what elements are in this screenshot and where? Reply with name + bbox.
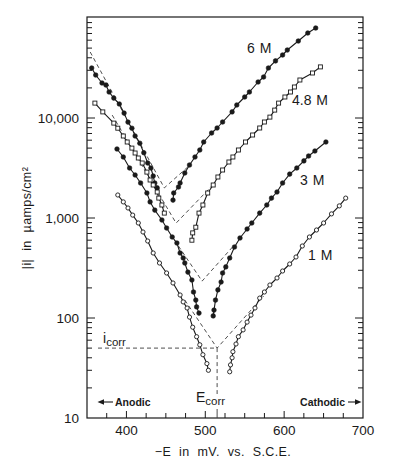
4-8m-cathodic-data-point bbox=[244, 140, 248, 144]
4-8m-cathodic-data-point bbox=[194, 225, 198, 229]
1m-cathodic-data-point bbox=[228, 370, 232, 374]
1m-cathodic-data-point bbox=[294, 255, 298, 259]
4-8m-cathodic-data-point bbox=[227, 160, 231, 164]
y-axis-title: |i| in µamps/cm² bbox=[20, 167, 34, 269]
1m-anodic-data-point bbox=[136, 221, 140, 225]
4-8m-cathodic-data-point bbox=[268, 115, 272, 119]
1m-cathodic-data-point bbox=[258, 296, 262, 300]
6m-cathodic-data-point bbox=[171, 191, 176, 196]
x-axis-title: −E in mV. vs. S.C.E. bbox=[155, 445, 291, 459]
4-8m-anodic-curve bbox=[95, 103, 164, 213]
3m-cathodic-data-point bbox=[324, 140, 329, 145]
6m-anodic-data-point bbox=[138, 141, 143, 146]
3m-cathodic-data-point bbox=[213, 298, 218, 303]
1m-cathodic-data-point bbox=[231, 350, 235, 354]
series-label-4-8m: 4.8 M bbox=[292, 92, 328, 108]
4-8m-anodic-data-point bbox=[133, 151, 137, 155]
6m-cathodic-data-point bbox=[285, 48, 290, 53]
6m-cathodic-data-point bbox=[230, 110, 235, 115]
1m-anodic-data-point bbox=[205, 362, 209, 366]
6m-anodic-data-point bbox=[93, 73, 98, 78]
4-8m-cathodic-data-point bbox=[197, 211, 201, 215]
4-8m-cathodic-data-point bbox=[318, 65, 322, 69]
4-8m-anodic-data-point bbox=[121, 134, 125, 138]
3m-cathodic-data-point bbox=[250, 221, 255, 226]
1m-anodic-data-point bbox=[198, 343, 202, 347]
3m-cathodic-data-point bbox=[313, 149, 318, 154]
3m-cathodic-data-point bbox=[212, 308, 217, 313]
x-tick-label: 500 bbox=[194, 423, 217, 438]
4-8m-cathodic-data-point bbox=[262, 120, 266, 124]
6m-anodic-data-point bbox=[149, 166, 154, 171]
6m-anodic-data-point bbox=[122, 111, 127, 116]
6m-cathodic-data-point bbox=[178, 181, 183, 186]
4-8m-anodic-data-point bbox=[101, 110, 105, 114]
4-8m-cathodic-data-point bbox=[191, 231, 195, 235]
cathodic-direction-indicator: Cathodic bbox=[300, 396, 361, 408]
3m-cathodic-data-point bbox=[306, 154, 311, 159]
4-8m-anodic-data-point bbox=[145, 170, 149, 174]
6m-anodic-data-point bbox=[130, 126, 135, 131]
3m-cathodic-data-point bbox=[257, 211, 262, 216]
6m-anodic-data-point bbox=[145, 161, 150, 166]
6m-cathodic-data-point bbox=[209, 131, 214, 136]
1m-cathodic-data-point bbox=[228, 363, 232, 367]
1m-anodic-data-point bbox=[171, 281, 175, 285]
6m-anodic-data-point bbox=[104, 83, 109, 88]
1m-anodic-data-point bbox=[185, 306, 189, 310]
3m-anodic-data-point bbox=[127, 166, 132, 171]
1m-anodic-data-point bbox=[116, 193, 120, 197]
1m-anodic-data-point bbox=[131, 213, 135, 217]
6m-cathodic-data-point bbox=[266, 66, 271, 71]
1m-anodic-data-point bbox=[191, 325, 195, 329]
4-8m-cathodic-data-point bbox=[231, 155, 235, 159]
1m-cathodic-data-point bbox=[245, 320, 249, 324]
6m-anodic-data-point bbox=[117, 102, 122, 107]
plot-frame bbox=[87, 17, 363, 418]
1m-cathodic-data-point bbox=[288, 262, 292, 266]
6m-cathodic-data-point bbox=[306, 31, 311, 36]
tafel-polarization-plot: 400500600700101001,00010,000 6 M4.8 M3 M… bbox=[0, 0, 394, 470]
1m-cathodic-data-point bbox=[262, 290, 266, 294]
3m-anodic-data-point bbox=[190, 278, 195, 283]
tafel-extrapolation-lines bbox=[90, 52, 263, 348]
3m-cathodic-data-point bbox=[295, 166, 300, 171]
series-labels: 6 M4.8 M3 M1 M bbox=[247, 40, 332, 263]
6m-cathodic-data-point bbox=[187, 163, 192, 168]
4-8m-anodic-data-point bbox=[93, 101, 97, 105]
y-tick-label: 100 bbox=[56, 311, 79, 326]
3m-anodic-data-point bbox=[194, 305, 199, 310]
i-corr-label: icorr bbox=[103, 330, 126, 348]
1m-anodic-data-point bbox=[121, 200, 125, 204]
4-8m-anodic-data-point bbox=[130, 146, 134, 150]
1m-anodic-data-point bbox=[181, 300, 185, 304]
anodic-label: Anodic bbox=[115, 396, 151, 408]
4-8m-cathodic-data-point bbox=[251, 133, 255, 137]
3m-anodic-data-point bbox=[175, 241, 180, 246]
3m-anodic-data-point bbox=[153, 208, 158, 213]
1m-cathodic-data-point bbox=[234, 342, 238, 346]
3m-cathodic-data-point bbox=[220, 271, 225, 276]
6m-cathodic-data-point bbox=[235, 103, 240, 108]
3m-anodic-data-point bbox=[186, 270, 191, 275]
3m-anodic-data-point bbox=[160, 218, 165, 223]
3m-anodic-data-point bbox=[191, 290, 196, 295]
6m-cathodic-data-point bbox=[242, 95, 247, 100]
4-8m-anodic-data-point bbox=[160, 203, 164, 207]
3m-cathodic-data-point bbox=[269, 196, 274, 201]
4-8m-anodic-data-point bbox=[157, 196, 161, 200]
1m-anodic-data-point bbox=[201, 353, 205, 357]
4-8m-anodic-data-point bbox=[112, 121, 116, 125]
1m-anodic-data-point bbox=[146, 239, 150, 243]
3m-cathodic-data-point bbox=[275, 190, 280, 195]
3m-cathodic-data-point bbox=[216, 288, 221, 293]
1m-anodic-data-point bbox=[195, 335, 199, 339]
6m-cathodic-data-point bbox=[198, 148, 203, 153]
6m-cathodic-data-point bbox=[220, 120, 225, 125]
6m-cathodic-data-point bbox=[273, 59, 278, 64]
series-label-1m: 1 M bbox=[308, 247, 332, 263]
1m-cathodic-data-point bbox=[329, 212, 333, 216]
4-8m-cathodic-data-point bbox=[277, 101, 281, 105]
i-corr-subscript: corr bbox=[106, 336, 126, 348]
3m-anodic-data-point bbox=[181, 256, 186, 261]
